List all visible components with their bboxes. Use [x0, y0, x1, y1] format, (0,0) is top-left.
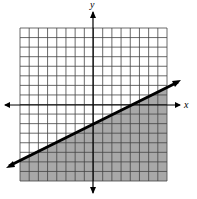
x-axis-left-arrow-icon	[4, 102, 10, 108]
y-axis-label: y	[89, 0, 95, 10]
x-axis-label: x	[183, 99, 189, 110]
y-axis-down-arrow-icon	[90, 187, 96, 194]
y-axis-up-arrow-icon	[90, 11, 96, 18]
coordinate-plane: x y	[0, 0, 197, 199]
x-axis-right-arrow-icon	[175, 102, 181, 108]
